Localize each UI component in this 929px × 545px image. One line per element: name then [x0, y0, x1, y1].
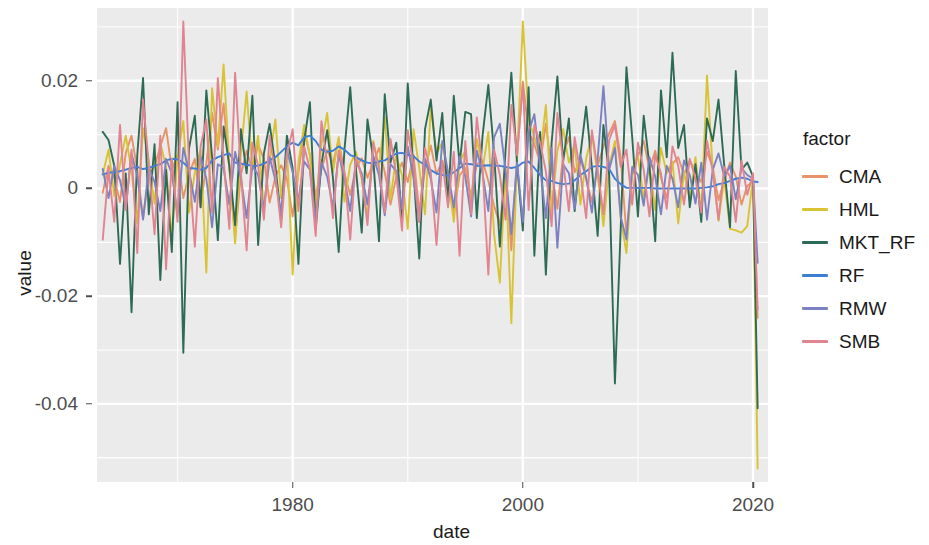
- legend-item-mkt_rf[interactable]: MKT_RF: [800, 226, 926, 259]
- legend-item-cma[interactable]: CMA: [800, 160, 926, 193]
- grid-lines: [97, 8, 768, 482]
- y-tick-label: -0.02: [0, 285, 78, 307]
- legend-item-label: CMA: [839, 166, 881, 188]
- y-tick-label: -0.04: [0, 393, 78, 415]
- y-tick-mark: [86, 295, 92, 297]
- y-tick-label: 0.02: [0, 70, 78, 92]
- x-tick-mark: [522, 482, 524, 488]
- legend-color-swatch: [802, 274, 828, 277]
- legend-item-rf[interactable]: RF: [800, 259, 926, 292]
- x-tick-mark: [292, 482, 294, 488]
- legend-color-swatch: [802, 175, 828, 178]
- y-tick-label: 0: [0, 177, 78, 199]
- x-axis-title: date: [433, 521, 470, 543]
- legend-item-label: RMW: [839, 298, 886, 320]
- legend-item-smb[interactable]: SMB: [800, 325, 926, 358]
- legend: factor CMAHMLMKT_RFRFRMWSMB: [800, 128, 926, 358]
- chart-figure: value 0.020-0.02-0.04 198020002020 date …: [0, 0, 929, 545]
- legend-color-swatch: [802, 307, 828, 310]
- legend-color-swatch: [802, 241, 828, 244]
- series-line-mkt_rf: [103, 53, 758, 409]
- legend-key-icon: [800, 263, 830, 289]
- legend-color-swatch: [802, 208, 828, 211]
- y-tick-mark: [86, 80, 92, 82]
- legend-key-icon: [800, 296, 830, 322]
- x-tick-mark: [752, 482, 754, 488]
- legend-key-icon: [800, 197, 830, 223]
- legend-item-label: HML: [839, 199, 879, 221]
- legend-item-rmw[interactable]: RMW: [800, 292, 926, 325]
- legend-key-icon: [800, 329, 830, 355]
- legend-key-icon: [800, 230, 830, 256]
- legend-item-label: RF: [839, 265, 864, 287]
- legend-item-label: MKT_RF: [839, 232, 915, 254]
- plot-area: [97, 8, 768, 482]
- legend-item-hml[interactable]: HML: [800, 193, 926, 226]
- y-tick-mark: [86, 188, 92, 190]
- legend-title: factor: [800, 128, 926, 150]
- x-tick-label: 2020: [732, 494, 774, 516]
- y-tick-mark: [86, 403, 92, 405]
- legend-color-swatch: [802, 340, 828, 343]
- legend-entries: CMAHMLMKT_RFRFRMWSMB: [800, 160, 926, 358]
- series-line-hml: [103, 21, 758, 468]
- x-tick-label: 2000: [502, 494, 544, 516]
- legend-item-label: SMB: [839, 331, 880, 353]
- plot-panel: [97, 8, 768, 482]
- legend-key-icon: [800, 164, 830, 190]
- x-tick-label: 1980: [272, 494, 314, 516]
